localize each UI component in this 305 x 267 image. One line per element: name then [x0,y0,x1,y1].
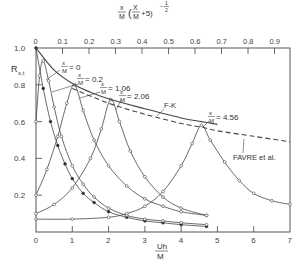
data-point [53,105,56,108]
x-tick-label: 1 [70,236,75,245]
data-point [38,74,41,77]
data-point [71,177,74,180]
svg-text:x: x [62,60,65,66]
x-axis-label-num: Uh [157,242,167,251]
y-tick-label: 0.8 [14,81,26,90]
y-tick-label: 0.6 [14,118,26,127]
data-point [205,223,208,226]
data-point [200,124,203,127]
top-tick-label: 0.3 [111,37,121,46]
data-point [82,109,85,112]
top-tick-label: 0.6 [190,37,200,46]
data-point [107,216,110,219]
data-point [205,214,208,217]
data-point [65,102,68,105]
data-point [125,212,128,215]
data-point [35,212,38,215]
data-point [71,186,74,189]
top-tick-label: 0.2 [84,37,94,46]
top-tick-label: 0.7 [217,37,227,46]
data-point [118,120,121,123]
curve-x-m-2-06 [36,99,207,215]
data-point [209,139,212,142]
data-point [270,199,273,202]
top-axis-paren-num: X [133,4,138,11]
data-curves [35,47,292,228]
svg-text:M: M [62,68,67,74]
label-fk: F-K [164,101,176,110]
label-x-m-4.56: xM= 4.56 [208,110,239,124]
x-tick-label: 0 [34,236,39,245]
data-point [125,185,128,188]
svg-text:1: 1 [165,0,168,6]
svg-text:= 4.56: = 4.56 [216,113,239,122]
svg-text:(: ( [128,7,132,19]
data-point [93,201,96,204]
plot-frame [36,48,290,232]
data-point [129,150,132,153]
data-point [162,205,165,208]
data-point [162,190,165,193]
plot-border [36,48,290,232]
data-point [143,218,146,221]
data-point [60,135,63,138]
y-axis-label-sub: x,t [18,70,25,76]
data-point [49,120,52,123]
data-point [100,128,103,131]
correlation-chart: 012345670.20.40.60.81.000.10.20.30.40.50… [0,0,305,267]
data-point [107,207,110,210]
x-tick-label: 6 [251,236,256,245]
data-point [238,179,241,182]
data-point [35,218,38,221]
data-point [93,196,96,199]
data-point [42,87,45,90]
data-point [35,194,38,197]
data-point [35,120,38,123]
top-axis-label-num: x [120,4,124,11]
svg-text:x: x [120,89,123,95]
data-point [42,59,45,62]
label-x-m-0.2: xM= 0.2 [77,72,104,86]
data-point [82,183,85,186]
x-tick-label: 2 [106,236,111,245]
data-point [180,207,183,210]
data-point [53,203,56,206]
svg-text:= 2.06: = 2.06 [127,92,150,101]
y-axis-label: R [11,64,18,74]
data-point [71,218,74,221]
svg-text:x: x [101,81,104,87]
svg-text:2: 2 [165,7,168,13]
data-point [82,192,85,195]
data-point [143,175,146,178]
svg-text:M: M [101,89,106,95]
x-tick-label: 4 [179,236,184,245]
x-axis-label-den: M [157,252,164,261]
curve-x-m-1-06 [36,85,207,216]
top-axis-label-den: M [119,13,125,20]
data-point [93,139,96,142]
data-point [162,220,165,223]
data-point [107,210,110,213]
data-point [47,80,50,83]
x-tick-label: 3 [142,236,147,245]
data-point [56,135,59,138]
svg-text:x: x [78,72,81,78]
data-point [180,221,183,224]
data-point [143,205,146,208]
top-tick-label: 0.8 [243,37,253,46]
data-point [252,192,255,195]
top-tick-label: 0.9 [270,37,280,46]
x-tick-label: 7 [288,236,293,245]
data-point [56,144,59,147]
data-point [89,157,92,160]
svg-text:−: − [160,3,164,9]
data-point [71,164,74,167]
top-axis-plus: +5) [141,9,153,18]
x-tick-label: 5 [215,236,220,245]
data-point [45,168,48,171]
top-tick-label: 0.4 [137,37,147,46]
y-tick-label: 0.4 [14,154,26,163]
data-point [223,161,226,164]
data-point [180,164,183,167]
annotations: xM= 0xM= 0.2xM= 1.06xM= 2.06xM= 4.56F-KF… [46,60,275,162]
